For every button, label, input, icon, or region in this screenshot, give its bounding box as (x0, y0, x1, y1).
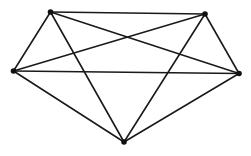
edge-A-D (51, 12, 240, 74)
graph-nodes (11, 9, 242, 145)
edge-A-B (51, 12, 206, 14)
edge-C-E (14, 71, 125, 142)
node-C (11, 68, 17, 74)
edge-B-C (14, 14, 206, 71)
graph-edges (14, 12, 240, 142)
graph-canvas (0, 0, 251, 156)
edge-C-D (14, 71, 240, 74)
edge-A-E (51, 12, 125, 142)
node-D (236, 71, 242, 77)
node-B (202, 11, 208, 17)
node-E (121, 139, 127, 145)
edge-B-E (124, 14, 205, 142)
edge-D-E (124, 74, 239, 143)
node-A (48, 9, 54, 15)
